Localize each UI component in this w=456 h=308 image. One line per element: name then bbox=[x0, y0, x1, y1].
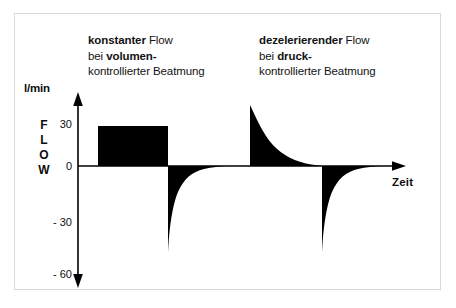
caption-right-line2-plain: bei bbox=[259, 50, 277, 62]
caption-left-line1: konstanter Flow bbox=[88, 33, 205, 49]
caption-left-line2: bei volumen- bbox=[88, 49, 205, 65]
caption-decelerating-flow: dezelerierender Flow bei druck- kontroll… bbox=[259, 33, 376, 80]
caption-right-line2: bei druck- bbox=[259, 49, 376, 65]
flow-time-diagram: konstanter Flow bei volumen- kontrollier… bbox=[0, 0, 456, 308]
caption-right-line1-bold: dezelerierender bbox=[259, 34, 343, 46]
chart-canvas bbox=[0, 0, 456, 308]
caption-left-line2-plain: bei bbox=[88, 50, 106, 62]
y-tick-minus-60: - 60 bbox=[30, 268, 72, 280]
caption-right-line3: kontrollierter Beatmung bbox=[259, 64, 376, 80]
y-axis bbox=[73, 92, 83, 288]
caption-right-line2-bold: druck- bbox=[277, 50, 312, 62]
caption-left-line3: kontrollierter Beatmung bbox=[88, 64, 205, 80]
y-tick-0: 0 bbox=[38, 160, 72, 172]
caption-left-line1-rest: Flow bbox=[146, 34, 173, 46]
caption-right-line1: dezelerierender Flow bbox=[259, 33, 376, 49]
caption-right-line1-rest: Flow bbox=[343, 34, 370, 46]
y-axis-unit-label: l/min bbox=[24, 82, 50, 94]
caption-constant-flow: konstanter Flow bei volumen- kontrollier… bbox=[88, 33, 205, 80]
waveform-constant-flow bbox=[98, 126, 228, 258]
caption-left-line1-bold: konstanter bbox=[88, 34, 146, 46]
y-tick-minus-30: - 30 bbox=[30, 216, 72, 228]
waveform-decelerating-flow bbox=[250, 105, 382, 258]
caption-left-line2-bold: volumen- bbox=[106, 50, 156, 62]
x-axis-label: Zeit bbox=[392, 176, 413, 188]
flow-letter-l: L bbox=[36, 133, 52, 148]
y-tick-30: 30 bbox=[38, 118, 72, 130]
